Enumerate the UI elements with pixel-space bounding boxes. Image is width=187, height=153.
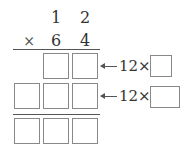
partial2-hundreds-box[interactable]	[14, 83, 40, 109]
partial1-ones-box[interactable]	[72, 53, 98, 79]
multiplier-tens-digit: 6	[48, 33, 64, 49]
partial2-tens-box[interactable]	[43, 83, 69, 109]
partial1-annotation: 12×	[119, 58, 151, 74]
result-tens-box[interactable]	[43, 118, 69, 144]
partial2-ones-box[interactable]	[72, 83, 98, 109]
partial2-annotation: 12×	[119, 88, 151, 104]
top-rule	[13, 49, 100, 50]
result-ones-box[interactable]	[72, 118, 98, 144]
multiply-sign: ×	[21, 33, 37, 49]
left-arrow-icon	[101, 96, 117, 97]
partial1-tens-box[interactable]	[43, 53, 69, 79]
partial2-multiplier-box[interactable]	[150, 86, 180, 108]
multiplier-ones-digit: 4	[77, 33, 93, 49]
multiplicand-tens-digit: 1	[48, 10, 64, 26]
multiplicand-ones-digit: 2	[77, 10, 93, 26]
left-arrow-icon	[101, 66, 117, 67]
partial1-multiplier-box[interactable]	[150, 55, 172, 77]
result-hundreds-box[interactable]	[14, 118, 40, 144]
bottom-rule	[13, 114, 100, 115]
